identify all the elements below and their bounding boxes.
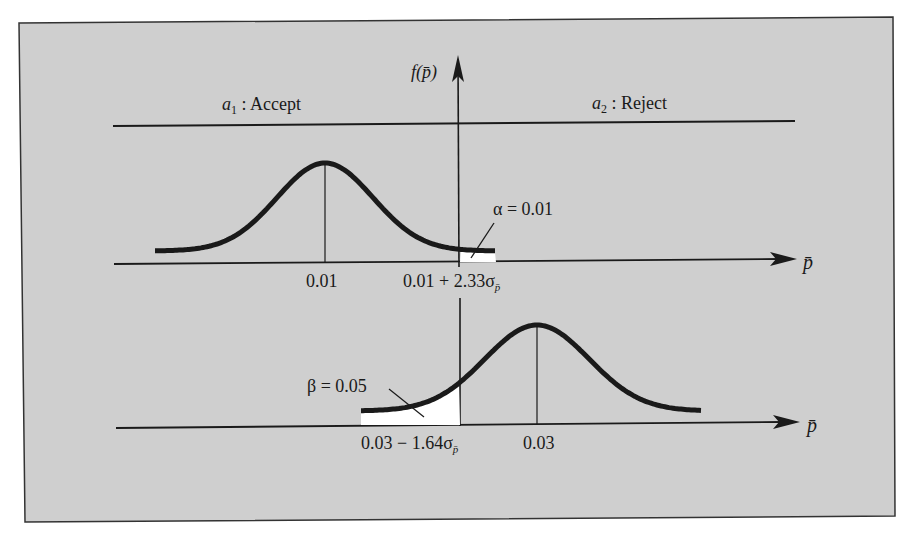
upper-critical-tick-label: 0.01 + 2.33σp̄ xyxy=(403,271,501,293)
y-axis-label: f(p̄) xyxy=(411,62,437,83)
upper-x-axis-label: p̄ xyxy=(801,251,813,274)
lower-x-axis-label: p̄ xyxy=(805,414,817,437)
lower-mean-tick-label: 0.03 xyxy=(523,433,555,453)
beta-label: β = 0.05 xyxy=(307,376,367,396)
y-axis-line xyxy=(458,60,459,267)
hypothesis-test-diagram: a1 : Accept a2 : Reject f(p̄) p̄ α = 0.0… xyxy=(0,0,909,536)
alpha-label: α = 0.01 xyxy=(493,199,553,219)
lower-critical-tick-label: 0.03 − 1.64σp̄ xyxy=(361,433,459,455)
upper-mean-tick-label: 0.01 xyxy=(306,271,338,291)
